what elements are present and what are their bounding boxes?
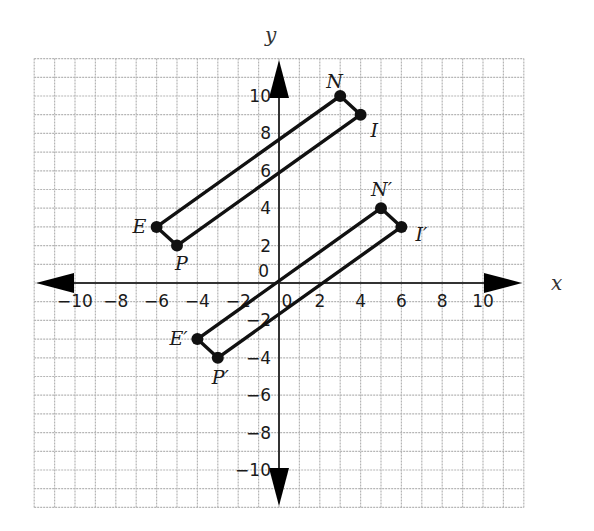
y-tick-label: 10 <box>249 86 271 106</box>
vertex-label: E′ <box>168 327 188 349</box>
vertex-point <box>395 221 407 233</box>
x-tick-label: −8 <box>103 291 128 311</box>
y-tick-label: −8 <box>246 423 271 443</box>
vertex-point <box>212 352 224 364</box>
vertex-label: N′ <box>370 178 393 200</box>
y-tick-label: −4 <box>246 348 271 368</box>
x-tick-label: −4 <box>185 291 210 311</box>
x-tick-label: 6 <box>396 291 407 311</box>
vertex-point <box>151 221 163 233</box>
vertex-point <box>171 240 183 252</box>
x-tick-label: 10 <box>472 291 494 311</box>
vertex-point <box>375 202 387 214</box>
arrow-down-icon <box>269 468 289 506</box>
x-tick-label: 2 <box>314 291 325 311</box>
vertex-point <box>355 109 367 121</box>
vertex-label: I′ <box>414 223 428 245</box>
vertex-label: N <box>325 70 344 92</box>
y-tick-label: 8 <box>260 123 271 143</box>
vertex-label: E <box>132 215 147 237</box>
vertex-label: P′ <box>211 366 230 388</box>
x-tick-label: −6 <box>144 291 169 311</box>
y-tick-label: 2 <box>260 236 271 256</box>
x-tick-label: 8 <box>437 291 448 311</box>
y-tick-label: −10 <box>235 460 271 480</box>
vertex-point <box>191 333 203 345</box>
coordinate-plane: −10−8−6−4−20246810−10−8−6−4−20246810 PEN… <box>0 0 594 531</box>
x-tick-label: 4 <box>355 291 366 311</box>
x-axis-label: x <box>551 271 562 295</box>
vertex-label: P <box>174 252 189 274</box>
y-axis-label: y <box>264 23 277 47</box>
y-tick-label: 4 <box>260 198 271 218</box>
y-tick-label: −6 <box>246 385 271 405</box>
vertex-label: I <box>370 119 379 141</box>
y-tick-label: 0 <box>258 261 269 281</box>
arrow-up-icon <box>269 60 289 98</box>
x-tick-label: −10 <box>57 291 93 311</box>
